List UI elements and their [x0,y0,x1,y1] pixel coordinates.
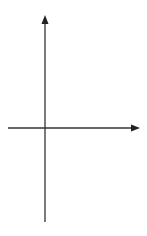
x-axis-arrow-icon [131,125,140,132]
coordinate-grid [0,0,147,236]
y-axis-arrow-icon [42,15,49,24]
